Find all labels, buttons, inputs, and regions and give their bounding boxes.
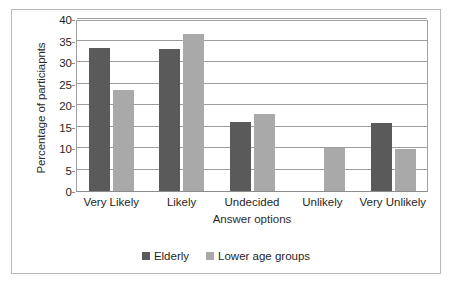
x-tick-label: Undecided [225,196,280,208]
x-tick-label: Unlikely [302,196,342,208]
y-tick-label: 35 [46,36,72,48]
y-tick-mark [72,149,75,150]
y-tick-label: 5 [46,165,72,177]
y-tick-label: 15 [46,122,72,134]
gridline [77,18,427,19]
bar[interactable] [89,48,110,191]
bar[interactable] [324,148,345,191]
plot-area [76,20,428,192]
legend-label: Lower age groups [218,250,310,262]
bar-group [359,21,429,191]
bar-group [218,21,288,191]
bar[interactable] [113,90,134,191]
bar[interactable] [371,123,392,191]
bar[interactable] [254,114,275,191]
bar[interactable] [230,122,251,191]
y-tick-label: 0 [46,186,72,198]
bar-group [147,21,217,191]
y-tick-mark [72,106,75,107]
y-tick-label: 40 [46,14,72,26]
y-tick-mark [72,20,75,21]
legend-swatch-icon [142,252,150,260]
legend-item[interactable]: Lower age groups [206,250,310,262]
x-axis-title: Answer options [76,213,428,225]
y-tick-mark [72,85,75,86]
legend-label: Elderly [154,250,189,262]
bar[interactable] [395,149,416,191]
figure-caption [4,285,204,294]
figure-frame: Percentage of particiapnts 0510152025303… [11,9,441,274]
y-tick-mark [72,63,75,64]
x-tick-label: Likely [167,196,196,208]
bar[interactable] [183,34,204,191]
bar-group [77,21,147,191]
legend-item[interactable]: Elderly [142,250,189,262]
bars-layer [77,21,427,191]
x-axis-tick-labels: Very LikelyLikelyUndecidedUnlikelyVery U… [76,196,428,212]
legend-swatch-icon [206,252,214,260]
y-tick-label: 25 [46,79,72,91]
y-tick-mark [72,192,75,193]
y-tick-label: 10 [46,143,72,155]
bar-group [288,21,358,191]
y-tick-label: 20 [46,100,72,112]
legend: ElderlyLower age groups [12,250,440,262]
y-tick-mark [72,171,75,172]
bar[interactable] [159,49,180,191]
y-tick-mark [72,128,75,129]
y-tick-mark [72,42,75,43]
x-tick-label: Very Unlikely [360,196,426,208]
y-tick-label: 30 [46,57,72,69]
y-axis-tick-labels: 0510152025303540 [40,20,72,192]
x-tick-label: Very Likely [83,196,139,208]
